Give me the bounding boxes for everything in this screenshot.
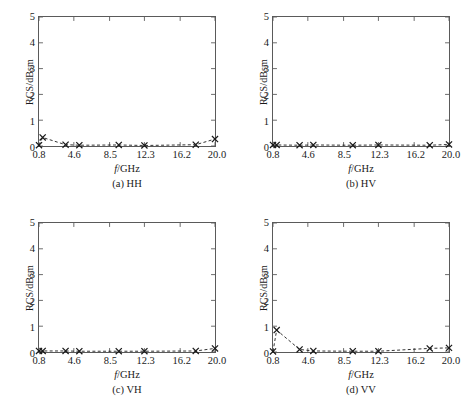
data-layer-vv xyxy=(273,223,449,352)
x-tick-label: 20.0 xyxy=(208,356,226,366)
x-tick-label: 20.0 xyxy=(442,356,460,366)
x-tick-label: 20.0 xyxy=(442,150,460,160)
x-tick-label: 0.8 xyxy=(32,150,45,160)
tick-marks-vv xyxy=(273,223,449,352)
subplot-hh: 0123450.84.68.512.316.220.0RCS/dBsmf/GHz… xyxy=(0,0,234,206)
data-layer-hv xyxy=(273,17,449,146)
x-axis-label-unit: /GHz xyxy=(117,369,140,380)
x-tick-label: 0.8 xyxy=(32,356,45,366)
x-tick-label: 16.2 xyxy=(173,356,191,366)
x-tick-label: 16.2 xyxy=(407,150,425,160)
x-tick-label: 12.3 xyxy=(136,356,154,366)
y-axis-label-vh: RCS/dBsm xyxy=(22,233,38,343)
y-tick-label: 5 xyxy=(30,12,35,22)
x-axis-label-hv: f/GHz xyxy=(272,163,450,174)
y-axis-label-hv: RCS/dBsm xyxy=(256,27,272,137)
x-tick-label: 4.6 xyxy=(68,150,81,160)
x-tick-label: 8.5 xyxy=(338,356,351,366)
x-tick-label: 12.3 xyxy=(136,150,154,160)
x-axis-label-unit: /GHz xyxy=(351,163,374,174)
subplot-caption-hv: (b) HV xyxy=(272,178,450,189)
series-line-vv xyxy=(273,330,449,351)
rcs-frequency-figure: 0123450.84.68.512.316.220.0RCS/dBsmf/GHz… xyxy=(0,0,468,413)
x-tick-label: 8.5 xyxy=(104,150,117,160)
subplot-caption-vv: (d) VV xyxy=(272,384,450,395)
plot-area-vh: 0123450.84.68.512.316.220.0RCS/dBsm xyxy=(38,222,216,353)
y-axis-label-vv: RCS/dBsm xyxy=(256,233,272,343)
x-tick-label: 4.6 xyxy=(68,356,81,366)
subplot-hv: 0123450.84.68.512.316.220.0RCS/dBsmf/GHz… xyxy=(234,0,468,206)
tick-marks-hh xyxy=(39,17,215,146)
x-tick-label: 12.3 xyxy=(370,356,388,366)
x-axis-label-vh: f/GHz xyxy=(38,369,216,380)
plot-area-hh: 0123450.84.68.512.316.220.0RCS/dBsm xyxy=(38,16,216,147)
series-markers-vv xyxy=(270,327,452,355)
tick-marks-vh xyxy=(39,223,215,352)
data-point xyxy=(212,136,218,142)
plot-area-vv: 0123450.84.68.512.316.220.0RCS/dBsm xyxy=(272,222,450,353)
x-tick-label: 8.5 xyxy=(338,150,351,160)
x-tick-label: 8.5 xyxy=(104,356,117,366)
x-tick-label: 0.8 xyxy=(266,356,279,366)
plot-area-hv: 0123450.84.68.512.316.220.0RCS/dBsm xyxy=(272,16,450,147)
series-markers-vh xyxy=(36,345,218,354)
x-tick-label: 20.0 xyxy=(208,150,226,160)
x-tick-label: 0.8 xyxy=(266,150,279,160)
y-tick-label: 5 xyxy=(30,218,35,228)
data-point xyxy=(274,327,280,333)
subplot-caption-vh: (c) VH xyxy=(38,384,216,395)
y-axis-label-hh: RCS/dBsm xyxy=(22,27,38,137)
tick-marks-hv xyxy=(273,17,449,146)
data-layer-hh xyxy=(39,17,215,146)
subplot-caption-hh: (a) HH xyxy=(38,178,216,189)
y-tick-label: 5 xyxy=(264,218,269,228)
x-axis-label-hh: f/GHz xyxy=(38,163,216,174)
x-tick-label: 16.2 xyxy=(173,150,191,160)
series-markers-hh xyxy=(36,134,218,148)
data-point xyxy=(427,142,433,148)
x-tick-label: 4.6 xyxy=(302,150,315,160)
x-tick-label: 16.2 xyxy=(407,356,425,366)
data-point xyxy=(310,348,316,354)
x-axis-label-unit: /GHz xyxy=(351,369,374,380)
x-tick-label: 4.6 xyxy=(302,356,315,366)
x-tick-label: 12.3 xyxy=(370,150,388,160)
data-layer-vh xyxy=(39,223,215,352)
x-axis-label-vv: f/GHz xyxy=(272,369,450,380)
x-axis-label-unit: /GHz xyxy=(117,163,140,174)
data-point xyxy=(193,348,199,354)
data-point xyxy=(40,134,46,140)
subplot-vv: 0123450.84.68.512.316.220.0RCS/dBsmf/GHz… xyxy=(234,206,468,413)
y-tick-label: 5 xyxy=(264,12,269,22)
subplot-vh: 0123450.84.68.512.316.220.0RCS/dBsmf/GHz… xyxy=(0,206,234,413)
